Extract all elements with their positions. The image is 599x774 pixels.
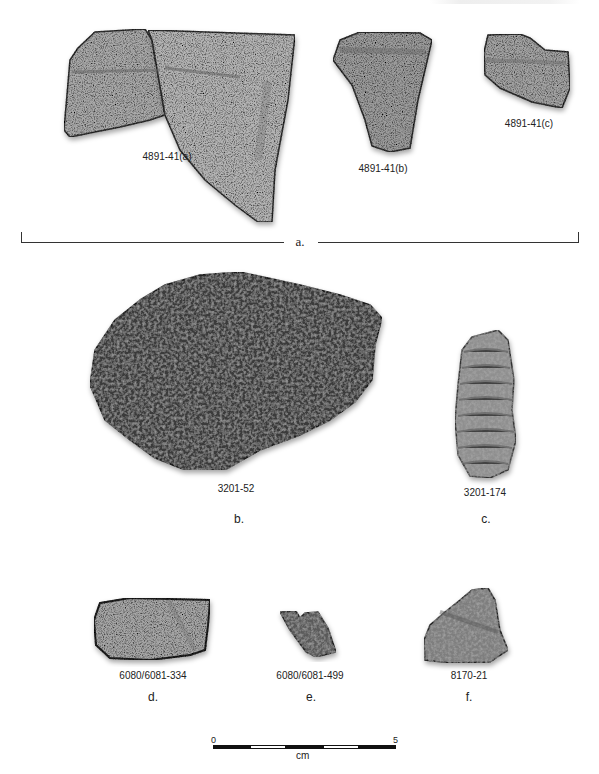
group-letter-e: e. — [306, 690, 316, 704]
specimen-label: 8170-21 — [451, 670, 488, 681]
scale-max-label: 5 — [393, 735, 398, 745]
scale-unit-label: cm — [296, 750, 309, 761]
scale-min-label: 0 — [211, 735, 216, 745]
sherd-3201-52 — [90, 272, 382, 470]
specimen-label: 6080/6081-334 — [119, 670, 186, 681]
scale-segment — [213, 745, 250, 749]
group-letter-a: a. — [295, 234, 304, 250]
sherd-8170-21 — [424, 588, 508, 663]
sherd-4891-41c — [484, 34, 570, 108]
sherd-4891-41a-right — [148, 30, 295, 222]
scale-segment — [286, 745, 323, 749]
specimen-label: 6080/6081-499 — [276, 670, 343, 681]
specimen-label: 4891-41(c) — [505, 118, 553, 129]
specimen-label: 4891-41(a) — [143, 151, 192, 162]
scale-segment — [323, 745, 359, 749]
sherd-4891-41a-left — [64, 29, 165, 137]
scale-segment — [250, 745, 286, 749]
group-letter-b: b. — [234, 512, 244, 526]
group-letter-c: c. — [481, 512, 490, 526]
scale-segment — [359, 745, 396, 749]
group-letter-f: f. — [466, 690, 473, 704]
sherd-6080-6081-499 — [280, 611, 336, 657]
sherd-illustrations — [0, 0, 599, 774]
group-letter-d: d. — [148, 690, 158, 704]
specimen-label: 4891-41(b) — [359, 163, 408, 174]
specimen-label: 3201-52 — [218, 483, 255, 494]
specimen-label: 3201-174 — [464, 487, 506, 498]
